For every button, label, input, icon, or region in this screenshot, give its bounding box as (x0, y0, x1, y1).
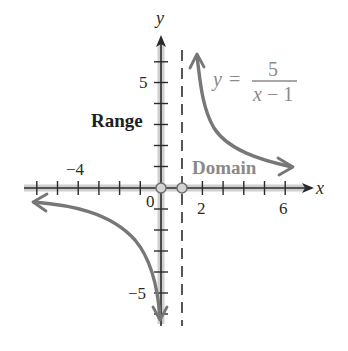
equation-equals: = (229, 68, 240, 90)
open-circle-x1 (177, 183, 187, 193)
equation-numerator: 5 (268, 58, 278, 80)
x-axis-label: x (315, 178, 324, 198)
y-axis-label: y (154, 8, 164, 28)
equation-denominator-rest: − 1 (262, 83, 293, 105)
x-tick-label-0: 0 (146, 192, 155, 211)
x-tick-label-6: 6 (279, 199, 288, 218)
rational-function-graph: y x −4 0 2 6 5 −5 Range Domain y = 5 x −… (0, 0, 348, 351)
equation-lhs: y (211, 68, 222, 91)
x-tick-label-neg4: −4 (66, 160, 85, 179)
open-circle-origin (156, 183, 166, 193)
y-tick-label-5: 5 (139, 73, 148, 92)
equation-denominator-x: x (252, 83, 262, 105)
equation-denominator: x − 1 (252, 83, 293, 105)
y-tick-label-neg5: −5 (128, 284, 146, 303)
domain-label: Domain (192, 157, 257, 178)
x-tick-label-2: 2 (197, 199, 206, 218)
equation-label: y = 5 x − 1 (211, 58, 297, 105)
range-label: Range (91, 110, 143, 131)
